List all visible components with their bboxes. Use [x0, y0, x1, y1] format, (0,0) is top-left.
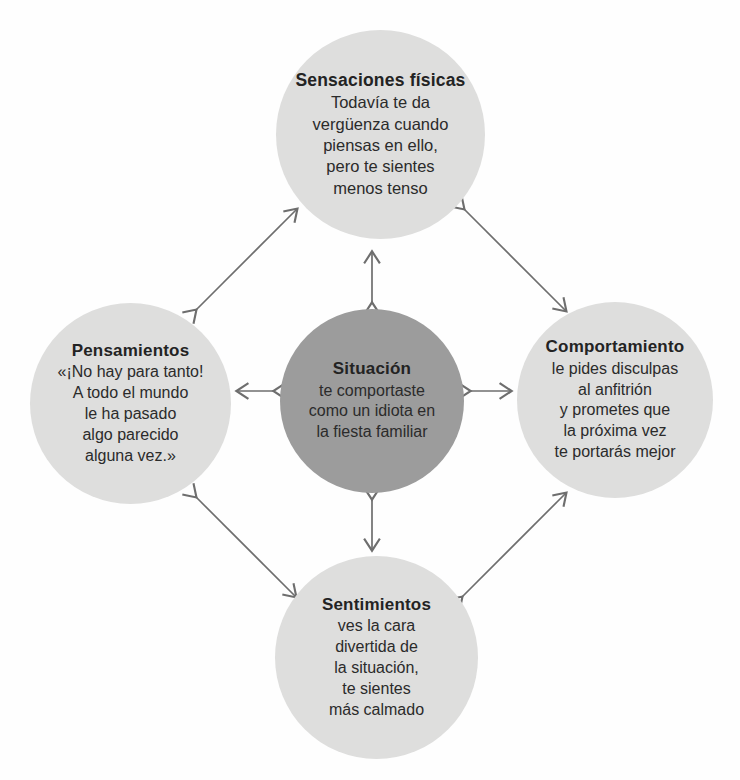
node-sensaciones-fisicas[interactable]: Sensaciones físicas Todavía te da vergüe… — [276, 30, 485, 239]
node-pensamientos[interactable]: Pensamientos «¡No hay para tanto! A todo… — [30, 303, 231, 504]
connector-top-right — [464, 209, 566, 311]
connector-bottom-right — [462, 493, 566, 597]
node-right-line-2: al anfitrión — [552, 380, 678, 401]
connector-left-bottom — [196, 497, 296, 597]
node-top-line-4: pero te sientes — [313, 156, 449, 177]
node-center-line-1: te comportaste — [309, 381, 435, 402]
node-top-line-1: Todavía te da — [313, 92, 449, 113]
node-right-body: le pides disculpas al anfitrión y promet… — [552, 359, 678, 463]
node-center-line-3: la fiesta familiar — [309, 422, 435, 443]
node-bottom-line-5: más calmado — [329, 700, 424, 721]
node-top-title: Sensaciones físicas — [295, 70, 465, 91]
node-center-line-2: como un idiota en — [309, 401, 435, 422]
node-left-line-2: A todo el mundo — [58, 383, 204, 404]
connector-left-top — [196, 209, 297, 310]
node-bottom-title: Sentimientos — [322, 595, 431, 616]
node-top-line-3: piensas en ello, — [313, 135, 449, 156]
node-right-line-5: te portarás mejor — [552, 442, 678, 463]
node-center-body: te comportaste como un idiota en la fies… — [309, 381, 435, 443]
diagram-canvas: Sensaciones físicas Todavía te da vergüe… — [0, 0, 740, 780]
node-bottom-line-3: la situación, — [329, 658, 424, 679]
node-left-line-5: alguna vez.» — [58, 446, 204, 467]
node-right-line-4: la próxima vez — [552, 421, 678, 442]
node-left-body: «¡No hay para tanto! A todo el mundo le … — [58, 362, 204, 466]
node-left-line-3: le ha pasado — [58, 404, 204, 425]
node-top-body: Todavía te da vergüenza cuando piensas e… — [313, 92, 449, 199]
node-bottom-line-2: divertida de — [329, 637, 424, 658]
node-situacion[interactable]: Situación te comportaste como un idiota … — [280, 309, 464, 493]
node-bottom-line-4: te sientes — [329, 679, 424, 700]
node-bottom-line-1: ves la cara — [329, 616, 424, 637]
node-top-line-2: vergüenza cuando — [313, 114, 449, 135]
node-top-line-5: menos tenso — [313, 178, 449, 199]
node-left-line-1: «¡No hay para tanto! — [58, 362, 204, 383]
node-center-title: Situación — [333, 359, 411, 380]
node-comportamiento[interactable]: Comportamiento le pides disculpas al anf… — [517, 302, 713, 498]
node-left-line-4: algo parecido — [58, 425, 204, 446]
node-left-title: Pensamientos — [72, 341, 190, 362]
node-bottom-body: ves la cara divertida de la situación, t… — [329, 616, 424, 720]
node-right-line-3: y prometes que — [552, 400, 678, 421]
node-right-line-1: le pides disculpas — [552, 359, 678, 380]
node-right-title: Comportamiento — [546, 337, 685, 358]
node-sentimientos[interactable]: Sentimientos ves la cara divertida de la… — [275, 556, 478, 759]
